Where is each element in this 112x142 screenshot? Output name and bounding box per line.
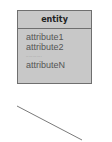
relationship-line[interactable] xyxy=(0,0,112,142)
